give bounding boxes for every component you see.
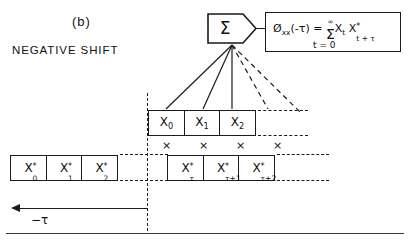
- sample-cell: X1: [184, 110, 221, 136]
- sample-subscript: τ+1: [225, 175, 241, 183]
- shift-arrow-line: [14, 208, 148, 209]
- summation-lower-limit: t = 0: [313, 41, 356, 50]
- multiply-icon: ×: [148, 139, 185, 153]
- sample-base: X: [231, 115, 239, 129]
- sample-subscript: τ+2: [261, 175, 277, 183]
- sample-cell: X*τ+1: [203, 155, 240, 181]
- figure-caption: NEGATIVE SHIFT: [12, 44, 118, 56]
- conjugate-shifted-row: X*τ X*τ+1 X*τ+2: [167, 155, 275, 181]
- multiply-icon: ×: [185, 139, 222, 153]
- sample-cell: X*τ+2: [238, 155, 275, 181]
- sample-label: X*1: [60, 162, 68, 174]
- sample-subscript: 0: [33, 175, 38, 183]
- formula-equals: =: [313, 22, 322, 35]
- sample-base: X: [60, 161, 68, 175]
- sample-subscript: τ: [190, 175, 195, 183]
- sample-base: X: [160, 115, 168, 129]
- row-continuation-dash-top-right: [277, 154, 329, 155]
- correlation-negative-shift-figure: (b) NEGATIVE SHIFT Σ Øxx(-τ) = ∞ Σ Xt X*…: [0, 0, 409, 243]
- multiply-symbol-row: × × × ×: [148, 139, 296, 153]
- sample-label: X1: [195, 116, 208, 131]
- sigma-symbol: Σ: [207, 13, 243, 44]
- row-continuation-dash-bottom-left: [120, 180, 168, 181]
- sample-base: X: [195, 115, 203, 129]
- sample-superscript: *: [190, 163, 194, 171]
- sample-superscript: *: [33, 163, 37, 171]
- sample-base: X: [181, 161, 189, 175]
- summation-operator: ∞ Σ: [326, 20, 335, 40]
- formula-argument: (-τ): [291, 22, 310, 35]
- row-continuation-dash-top-left: [120, 154, 168, 155]
- row-continuation-dash-top-row-upper: [258, 110, 308, 111]
- sample-cell: X0: [148, 110, 185, 136]
- sample-base: X: [95, 161, 103, 175]
- autocorrelation-formula: Øxx(-τ) = ∞ Σ Xt X*t + τ t = 0: [273, 19, 356, 50]
- formula-term2-base: X: [349, 22, 357, 35]
- sample-label: X*0: [24, 162, 32, 174]
- sample-subscript: 1: [68, 175, 73, 183]
- formula-term2-subscript: t + τ: [356, 35, 375, 43]
- figure-bottom-rule: [6, 233, 404, 234]
- sample-subscript: 0: [168, 121, 173, 131]
- summing-junction: Σ: [207, 13, 257, 44]
- sample-cell: X*0: [10, 155, 47, 181]
- sample-base: X: [24, 161, 32, 175]
- sample-cell: X*τ: [167, 155, 204, 181]
- sample-label: X*2: [95, 162, 103, 174]
- formula-term2-superscript: *: [356, 23, 360, 31]
- sample-cell: X2: [219, 110, 256, 136]
- summation-sigma: Σ: [326, 26, 335, 42]
- conjugate-origin-row: X*0 X*1 X*2: [10, 155, 118, 181]
- sample-base: X: [217, 161, 225, 175]
- multiply-icon: ×: [222, 139, 259, 153]
- sample-label: X*τ+1: [217, 162, 225, 174]
- sample-base: X: [252, 161, 260, 175]
- sample-superscript: *: [68, 163, 72, 171]
- shift-amount-label: −τ: [31, 213, 48, 227]
- sample-superscript: *: [261, 163, 265, 171]
- sample-subscript: 2: [239, 121, 244, 131]
- sample-label: X*τ: [181, 162, 189, 174]
- autocorrelation-formula-box: Øxx(-τ) = ∞ Σ Xt X*t + τ t = 0: [265, 12, 401, 52]
- formula-function-symbol: Ø: [273, 22, 282, 35]
- sample-subscript: 1: [204, 121, 209, 131]
- reference-sequence-row: X0 X1 X2: [148, 110, 256, 136]
- formula-term1-subscript: t: [342, 28, 345, 37]
- row-continuation-dash-bottom-right: [277, 180, 329, 181]
- row-continuation-dash-top-row-lower: [258, 135, 308, 136]
- sample-cell: X*2: [81, 155, 118, 181]
- multiply-icon: ×: [259, 139, 296, 153]
- panel-label: (b): [72, 14, 91, 29]
- sample-superscript: *: [225, 163, 229, 171]
- sample-cell: X*1: [46, 155, 83, 181]
- sample-superscript: *: [104, 163, 108, 171]
- formula-function-subscript: xx: [282, 28, 291, 37]
- sample-label: X*τ+2: [252, 162, 260, 174]
- sample-label: X0: [160, 116, 173, 131]
- sample-subscript: 2: [104, 175, 109, 183]
- sample-label: X2: [231, 116, 244, 131]
